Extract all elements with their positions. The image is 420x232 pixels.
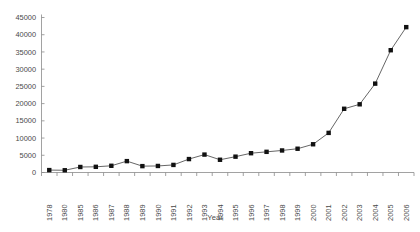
- data-point-marker: [94, 165, 98, 169]
- x-tick-label: 1999: [293, 205, 302, 221]
- x-tick-label: 2003: [355, 205, 364, 221]
- x-axis-tick-marks: [42, 173, 415, 177]
- x-axis-tick-labels: 1978198019851986198719881989199019911992…: [45, 205, 411, 221]
- data-point-marker: [373, 81, 377, 85]
- y-tick-label: 30000: [15, 65, 36, 74]
- y-tick-label: 20000: [15, 99, 36, 108]
- x-tick-label: 1986: [91, 205, 100, 221]
- x-tick-label: 1995: [231, 205, 240, 221]
- data-point-marker: [295, 147, 299, 151]
- x-tick-label: 1998: [278, 205, 287, 221]
- series-line: [49, 27, 406, 170]
- x-axis-title: Year: [207, 213, 223, 222]
- y-tick-label: 25000: [15, 82, 36, 91]
- data-point-marker: [280, 148, 284, 152]
- x-tick-label: 2004: [371, 205, 380, 221]
- data-point-marker: [326, 131, 330, 135]
- x-tick-label: 1989: [138, 205, 147, 221]
- x-tick-label: 1978: [45, 205, 54, 221]
- data-point-marker: [125, 159, 129, 163]
- data-point-marker: [187, 157, 191, 161]
- data-point-marker: [342, 107, 346, 111]
- data-point-marker: [357, 102, 361, 106]
- x-tick-label: 1988: [122, 205, 131, 221]
- x-tick-label: 2000: [309, 205, 318, 221]
- x-tick-label: 1987: [107, 205, 116, 221]
- chart-canvas: 0500010000150002000025000300003500040000…: [0, 0, 420, 232]
- data-point-marker: [404, 25, 408, 29]
- y-tick-label: 15000: [15, 116, 36, 125]
- x-tick-label: 1996: [247, 205, 256, 221]
- data-point-marker: [233, 154, 237, 158]
- data-point-marker: [171, 163, 175, 167]
- data-point-marker: [311, 142, 315, 146]
- x-tick-label: 2001: [324, 205, 333, 221]
- x-tick-label: 1980: [60, 205, 69, 221]
- x-tick-label: 2006: [402, 205, 411, 221]
- data-point-marker: [218, 158, 222, 162]
- y-tick-label: 0: [32, 168, 36, 177]
- x-tick-label: 1992: [185, 205, 194, 221]
- y-tick-label: 10000: [15, 134, 36, 143]
- x-tick-label: 2005: [386, 205, 395, 221]
- series-markers: [47, 25, 408, 173]
- x-tick-label: 1990: [154, 205, 163, 221]
- data-point-marker: [140, 164, 144, 168]
- x-tick-label: 2002: [340, 205, 349, 221]
- y-tick-label: 5000: [20, 151, 36, 160]
- data-point-marker: [47, 168, 51, 172]
- data-point-marker: [109, 164, 113, 168]
- data-point-marker: [389, 48, 393, 52]
- y-tick-label: 40000: [15, 30, 36, 39]
- data-point-marker: [78, 165, 82, 169]
- y-tick-label: 45000: [15, 13, 36, 22]
- x-tick-label: 1997: [262, 205, 271, 221]
- y-axis-tick-marks: [42, 18, 45, 173]
- x-tick-label: 1985: [76, 205, 85, 221]
- data-point-marker: [264, 150, 268, 154]
- y-axis-tick-labels: 0500010000150002000025000300003500040000…: [15, 13, 36, 177]
- x-tick-label: 1991: [169, 205, 178, 221]
- y-tick-label: 35000: [15, 48, 36, 57]
- line-chart: 0500010000150002000025000300003500040000…: [0, 0, 420, 232]
- data-point-marker: [249, 151, 253, 155]
- data-point-marker: [202, 152, 206, 156]
- data-point-marker: [156, 164, 160, 168]
- data-point-marker: [63, 168, 67, 172]
